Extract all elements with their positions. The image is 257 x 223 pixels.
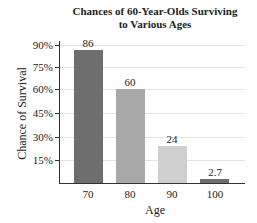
bar-70 [74,50,103,183]
y-axis-line [59,41,60,183]
bar-value-label: 60 [110,76,150,88]
bar-value-label: 86 [68,37,108,49]
x-axis-line [59,183,245,184]
y-tick-label: 75% [20,61,53,73]
chart-title: Chances of 60-Year-Olds Surviving to Var… [60,5,250,31]
y-tick-label: 30% [20,131,53,143]
y-tick-label: 60% [20,83,53,95]
y-tick-label: 45% [20,107,53,119]
bar-80 [116,89,145,183]
bar-value-label: 2.7 [195,166,235,178]
bar-90 [158,146,187,183]
x-tick-label: 100 [195,188,235,200]
x-tick-label: 80 [110,188,150,200]
y-tick-label: 15% [20,154,53,166]
x-axis-title: Age [130,203,180,218]
y-tick-label: 90% [20,39,53,51]
x-tick-label: 90 [152,188,192,200]
chart-title-line-1: Chances of 60-Year-Olds Surviving [60,5,250,18]
x-tick-label: 70 [68,188,108,200]
bar-value-label: 24 [152,133,192,145]
chart-title-line-2: to Various Ages [60,18,250,31]
